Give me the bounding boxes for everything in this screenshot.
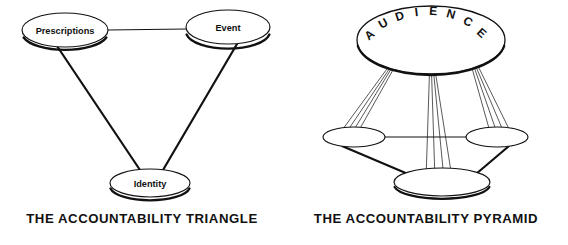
- node-identity-label: Identity: [134, 179, 168, 189]
- ray-bundle-left: [340, 61, 398, 133]
- accountability-triangle-diagram: Prescriptions Event Identity: [0, 0, 284, 210]
- triangle-edges: [57, 29, 237, 170]
- node-base-bottom[interactable]: [394, 168, 490, 199]
- caption-accountability-pyramid: THE ACCOUNTABILITY PYRAMID: [284, 211, 568, 226]
- edge-base-right-bottom: [476, 146, 509, 174]
- accountability-figure: Prescriptions Event Identity THE ACCOUNT…: [0, 0, 568, 245]
- node-event-label: Event: [215, 23, 240, 33]
- accountability-pyramid-panel: A U D I E N C E: [284, 0, 568, 245]
- node-prescriptions[interactable]: Prescriptions: [22, 13, 108, 50]
- node-base-right[interactable]: [466, 127, 528, 147]
- node-audience[interactable]: A U D I E N C E: [357, 4, 505, 84]
- audience-letter-4: E: [429, 4, 438, 19]
- node-base-bottom-ellipse: [394, 168, 490, 196]
- edge-prescriptions-event: [108, 29, 186, 30]
- edge-base-left-bottom: [342, 146, 408, 174]
- accountability-triangle-panel: Prescriptions Event Identity THE ACCOUNT…: [0, 0, 284, 245]
- ray-bundle-right: [470, 61, 511, 133]
- node-prescriptions-label: Prescriptions: [36, 26, 95, 36]
- edge-event-identity: [163, 44, 237, 170]
- node-event[interactable]: Event: [186, 10, 270, 49]
- node-identity[interactable]: Identity: [110, 169, 190, 200]
- accountability-pyramid-diagram: A U D I E N C E: [284, 0, 568, 210]
- node-base-left-ellipse: [323, 127, 385, 147]
- node-base-left[interactable]: [323, 127, 385, 147]
- edge-prescriptions-identity: [57, 46, 140, 170]
- caption-accountability-triangle: THE ACCOUNTABILITY TRIANGLE: [0, 211, 284, 226]
- node-base-right-ellipse: [466, 127, 528, 147]
